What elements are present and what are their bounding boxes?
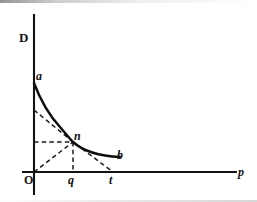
quantity-foot-label-q: q bbox=[68, 174, 74, 186]
tangent-intercept-label-t: t bbox=[109, 174, 112, 186]
demand-axis-label: D bbox=[19, 31, 28, 44]
figure-canvas bbox=[0, 0, 257, 202]
price-axis-label: p bbox=[238, 166, 244, 178]
curve-start-label-a: a bbox=[36, 70, 42, 82]
demand-curve-figure: D p O a n b q t bbox=[0, 0, 257, 202]
origin-label: O bbox=[24, 174, 33, 186]
origin-ray-dashed-line bbox=[34, 142, 73, 172]
curve-point-label-n: n bbox=[74, 130, 81, 142]
curve-end-label-b: b bbox=[117, 149, 123, 161]
